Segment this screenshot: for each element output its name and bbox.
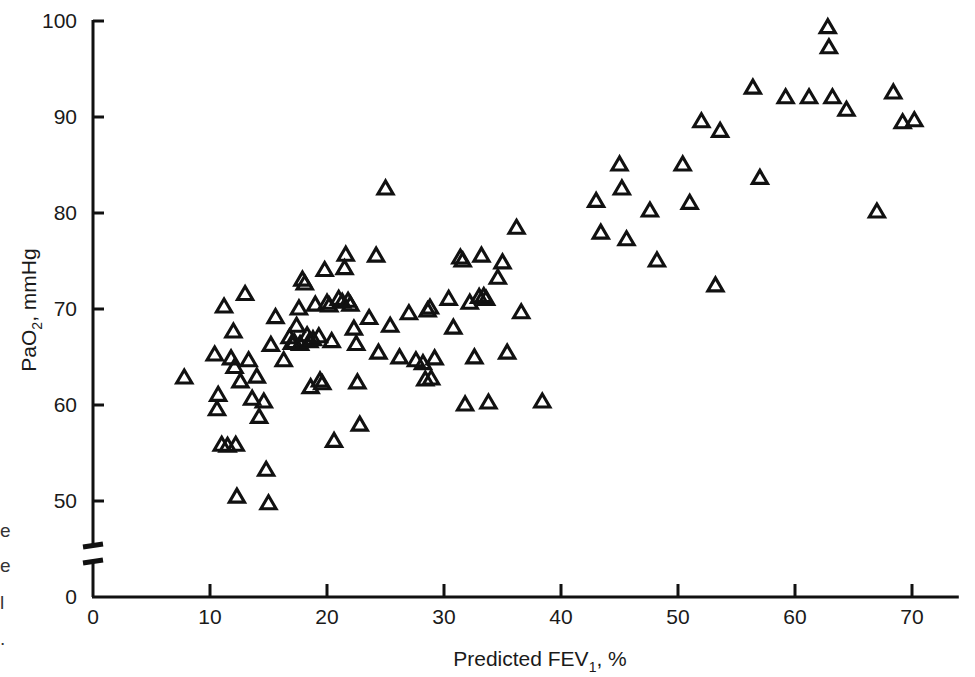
x-tick-label: 70 (900, 605, 923, 628)
data-point-marker (589, 193, 604, 206)
y-tick-label: 70 (54, 297, 77, 320)
data-point-marker (226, 324, 241, 337)
y-axis-break-mark-lower (83, 560, 103, 563)
y-tick-label: 0 (65, 585, 77, 608)
data-point-marker (694, 114, 709, 127)
data-markers-layer (177, 20, 922, 509)
data-point-marker (241, 353, 256, 366)
caption-sliver-line-2: e (0, 555, 14, 577)
data-point-marker (441, 291, 456, 304)
data-point-marker (289, 318, 304, 331)
data-point-marker (233, 374, 248, 387)
data-point-marker (337, 261, 352, 274)
data-point-marker (229, 489, 244, 502)
data-point-marker (249, 369, 264, 382)
caption-sliver-line-1: e (0, 520, 14, 542)
y-tick-label: 60 (54, 393, 77, 416)
x-tick-label: 50 (666, 605, 689, 628)
x-axis-title: Predicted FEV1, % (453, 647, 627, 675)
data-point-marker (238, 287, 253, 300)
data-point-marker (378, 181, 393, 194)
data-point-marker (446, 320, 461, 333)
data-point-marker (261, 496, 276, 509)
data-point-marker (481, 395, 496, 408)
data-point-marker (352, 417, 367, 430)
data-point-marker (708, 278, 723, 291)
data-point-marker (252, 409, 267, 422)
data-point-marker (177, 370, 192, 383)
data-point-marker (346, 321, 361, 334)
data-point-marker (500, 345, 515, 358)
data-point-marker (593, 225, 608, 238)
data-point-marker (259, 462, 274, 475)
y-tick-label: 90 (54, 105, 77, 128)
data-point-marker (383, 318, 398, 331)
data-point-marker (392, 350, 407, 363)
data-point-marker (514, 305, 529, 318)
scatter-plot-figure: 05060708090100010203040506070 Predicted … (0, 0, 975, 677)
data-point-marker (268, 310, 283, 323)
data-point-marker (350, 375, 365, 388)
data-point-marker (495, 255, 510, 268)
data-point-marker (207, 347, 222, 360)
data-point-marker (535, 394, 550, 407)
data-point-marker (256, 394, 271, 407)
x-tick-label: 40 (549, 605, 572, 628)
data-point-marker (371, 345, 386, 358)
data-point-marker (649, 253, 664, 266)
data-point-marker (682, 195, 697, 208)
y-tick-label: 50 (54, 489, 77, 512)
data-point-marker (362, 311, 377, 324)
plot-canvas: 05060708090100010203040506070 Predicted … (0, 0, 975, 677)
data-point-marker (324, 334, 339, 347)
data-point-marker (907, 113, 922, 126)
data-point-marker (509, 220, 524, 233)
data-point-marker (401, 306, 416, 319)
data-point-marker (276, 353, 291, 366)
data-point-marker (467, 350, 482, 363)
data-point-marker (713, 123, 728, 136)
y-tick-label: 100 (42, 9, 77, 32)
caption-sliver-line-4: . (0, 628, 14, 650)
y-axis-break-mark-upper (83, 544, 103, 547)
data-point-marker (490, 270, 505, 283)
data-point-marker (801, 90, 816, 103)
x-tick-label: 10 (198, 605, 221, 628)
x-tick-label: 30 (432, 605, 455, 628)
data-point-marker (778, 90, 793, 103)
data-point-marker (675, 157, 690, 170)
x-tick-label: 0 (87, 605, 99, 628)
x-tick-label: 20 (315, 605, 338, 628)
data-point-marker (291, 301, 306, 314)
data-point-marker (619, 232, 634, 245)
y-tick-label: 80 (54, 201, 77, 224)
data-point-marker (820, 20, 835, 33)
y-axis-title: PaO2, mmHg (17, 248, 45, 371)
data-point-marker (317, 263, 332, 276)
data-point-marker (263, 337, 278, 350)
data-point-marker (614, 181, 629, 194)
data-point-marker (369, 248, 384, 261)
data-point-marker (216, 299, 231, 312)
x-tick-label: 60 (783, 605, 806, 628)
data-point-marker (427, 351, 442, 364)
data-point-marker (209, 402, 224, 415)
data-point-marker (869, 204, 884, 217)
data-point-marker (745, 80, 760, 93)
data-point-marker (642, 203, 657, 216)
data-point-marker (457, 397, 472, 410)
caption-sliver-line-3: l (0, 592, 14, 614)
data-point-marker (228, 437, 243, 450)
data-point-marker (211, 387, 226, 400)
data-point-marker (338, 247, 353, 260)
data-point-marker (474, 248, 489, 261)
data-point-marker (752, 170, 767, 183)
data-point-marker (825, 90, 840, 103)
data-point-marker (821, 40, 836, 53)
axes-layer (83, 20, 959, 597)
data-point-marker (886, 85, 901, 98)
data-point-marker (349, 336, 364, 349)
data-point-marker (612, 157, 627, 170)
data-point-marker (326, 433, 341, 446)
